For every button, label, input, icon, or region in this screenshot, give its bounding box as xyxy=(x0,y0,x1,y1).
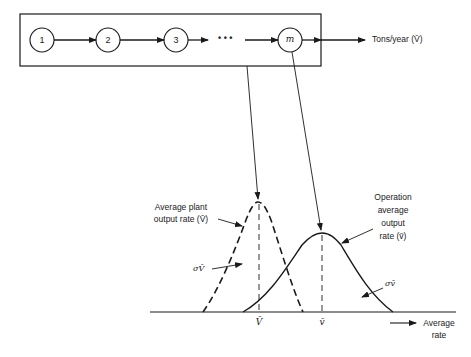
axis-label-line2: rate xyxy=(419,331,459,340)
plant-label-arrow xyxy=(218,219,242,226)
connector-operation xyxy=(292,52,321,230)
operation-label-line3: output xyxy=(365,219,421,228)
plant-label-line2: output rate (V̄) xyxy=(145,215,217,224)
operation-label-line4: rate (v̄) xyxy=(365,232,421,241)
node-1-label: 1 xyxy=(32,36,52,45)
diagram-canvas xyxy=(0,0,471,357)
operation-label-line1: Operation xyxy=(365,193,421,202)
node-3-label: 3 xyxy=(166,36,186,45)
ellipsis: • • • xyxy=(218,34,232,43)
axis-label-line1: Average xyxy=(419,319,459,328)
node-m-label: m xyxy=(280,35,300,44)
plant-label-line1: Average plant xyxy=(145,203,217,212)
operation-sigma-arrow xyxy=(362,288,383,297)
operation-sigma-label: σv̄ xyxy=(385,280,395,288)
connector-plant xyxy=(247,66,258,199)
plant-sigma-label: σV̄ xyxy=(193,265,204,273)
operation-distribution-curve xyxy=(243,233,393,312)
operation-label-line2: average xyxy=(365,206,421,215)
plant-mean-tick-label: V̄ xyxy=(251,318,267,327)
node-2-label: 2 xyxy=(98,36,118,45)
plant-distribution-curve xyxy=(203,202,303,312)
output-label: Tons/year (V̄) xyxy=(372,35,423,44)
operation-mean-tick-label: v̄ xyxy=(314,318,330,327)
